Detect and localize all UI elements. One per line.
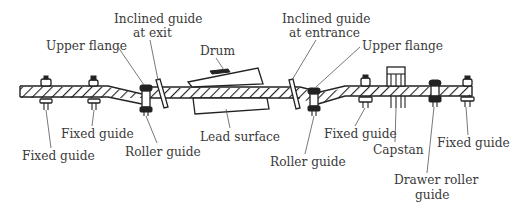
tape-path-diagram: Upper flange Inclined guide at exit Drum… [0, 0, 516, 211]
label-roller-guide-right: Roller guide [270, 155, 346, 169]
label-fixed-guide-1: Fixed guide [22, 149, 95, 163]
label-upper-flange-right: Upper flange [362, 39, 443, 53]
label-upper-flange-left: Upper flange [46, 39, 127, 53]
label-drum: Drum [200, 44, 235, 58]
label-fixed-guide-3: Fixed guide [324, 127, 397, 141]
label-fixed-guide-4: Fixed guide [437, 136, 510, 150]
label-roller-guide-left: Roller guide [125, 145, 201, 159]
label-drawer-roller-guide-line1: Drawer roller [394, 173, 478, 187]
label-fixed-guide-2: Fixed guide [61, 127, 134, 141]
label-capstan: Capstan [373, 143, 424, 157]
roller-guide-right [308, 88, 320, 116]
label-inclined-guide-exit-line1: Inclined guide [114, 12, 203, 26]
label-inclined-guide-entrance-line2: at entrance [289, 26, 360, 40]
drawer-roller-guide [429, 80, 441, 107]
label-lead-surface: Lead surface [200, 130, 280, 144]
label-inclined-guide-entrance-line1: Inclined guide [282, 12, 371, 26]
label-inclined-guide-exit-line2: at exit [133, 26, 172, 40]
roller-guide-left [140, 85, 152, 116]
label-drawer-roller-guide-line2: guide [415, 188, 450, 202]
